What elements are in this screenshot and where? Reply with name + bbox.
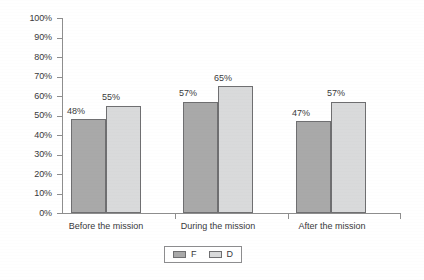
y-axis-label-80: 80% xyxy=(34,53,52,62)
x-tick-axis-end xyxy=(400,214,401,219)
y-axis-label-100: 100% xyxy=(29,14,52,23)
bar-chart: 100% 90% 80% 70% 60% 50% 40% 30% 20% 10%… xyxy=(0,0,424,280)
x-axis-line xyxy=(62,213,401,214)
value-label-f-during: 57% xyxy=(168,89,208,98)
value-label-d-after: 57% xyxy=(316,89,356,98)
x-axis-category-label-1: During the mission xyxy=(173,221,263,231)
y-axis-label-50: 50% xyxy=(34,111,52,120)
y-axis-label-90: 90% xyxy=(34,33,52,42)
y-axis-label-30: 30% xyxy=(34,150,52,159)
value-label-d-during: 65% xyxy=(203,74,243,83)
y-axis-label-20: 20% xyxy=(34,170,52,179)
x-tick-group-separator-2 xyxy=(288,214,289,219)
y-axis-label-70: 70% xyxy=(34,72,52,81)
legend-label-d: D xyxy=(227,250,234,259)
legend: F D xyxy=(164,246,242,263)
y-axis-label-10: 10% xyxy=(34,189,52,198)
bar-d-after-the-mission[interactable] xyxy=(331,102,366,213)
bar-f-after-the-mission[interactable] xyxy=(296,121,331,213)
legend-entry-f[interactable]: F xyxy=(173,250,197,259)
bar-d-before-the-mission[interactable] xyxy=(106,106,141,213)
y-axis-label-40: 40% xyxy=(34,131,52,140)
legend-swatch-f-icon xyxy=(173,251,186,258)
value-label-d-before: 55% xyxy=(91,93,131,102)
legend-entry-d[interactable]: D xyxy=(209,250,234,259)
y-axis-label-0: 0% xyxy=(39,209,52,218)
bar-d-during-the-mission[interactable] xyxy=(218,86,253,213)
bar-f-before-the-mission[interactable] xyxy=(71,119,106,213)
plot-area xyxy=(63,18,400,213)
y-axis-label-60: 60% xyxy=(34,92,52,101)
x-axis-category-label-0: Before the mission xyxy=(61,221,151,231)
legend-swatch-d-icon xyxy=(209,251,222,258)
legend-label-f: F xyxy=(191,250,197,259)
value-label-f-before: 48% xyxy=(56,107,96,116)
value-label-f-after: 47% xyxy=(281,109,321,118)
bar-f-during-the-mission[interactable] xyxy=(183,102,218,213)
x-axis-category-label-2: After the mission xyxy=(287,221,377,231)
x-tick-group-separator-1 xyxy=(175,214,176,219)
